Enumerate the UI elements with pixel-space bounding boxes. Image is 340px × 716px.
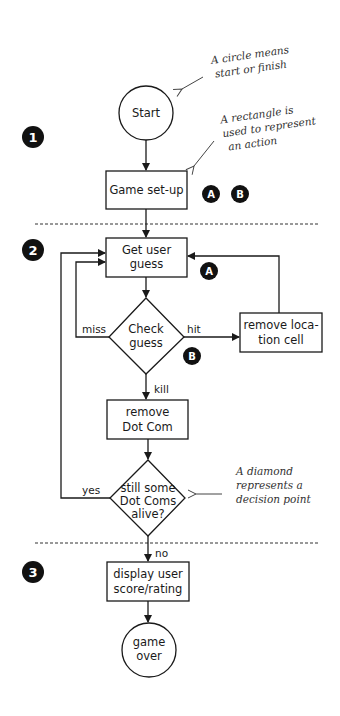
svg-text:guess: guess <box>129 336 163 350</box>
svg-text:remove: remove <box>126 405 170 419</box>
annotation-diamond: A diamond represents a decision point <box>235 465 312 505</box>
svg-text:game: game <box>133 635 166 649</box>
svg-text:remove loca-: remove loca- <box>243 318 318 332</box>
annotation-circle: A circle means start or finish <box>209 43 292 80</box>
annotation-rectangle-arrow <box>194 141 214 166</box>
svg-text:still some: still some <box>120 481 175 495</box>
svg-text:Dot Coms: Dot Coms <box>120 494 176 508</box>
edge-label-kill: kill <box>154 383 169 395</box>
edge-label-yes: yes <box>82 484 100 496</box>
node-game-over: game over <box>122 623 176 677</box>
svg-text:decision point: decision point <box>236 493 312 505</box>
svg-text:tion cell: tion cell <box>258 333 303 347</box>
section-badge-1: 1 <box>22 126 44 148</box>
svg-text:Check: Check <box>128 322 164 336</box>
edge-label-miss: miss <box>82 323 106 335</box>
svg-text:B: B <box>236 189 244 200</box>
marker-b-check: B <box>183 347 201 365</box>
section-badge-3: 3 <box>22 561 44 583</box>
node-start: Start <box>119 86 173 140</box>
edge-remove-cell-to-guess <box>188 256 279 313</box>
svg-text:score/rating: score/rating <box>114 582 183 596</box>
svg-text:1: 1 <box>28 130 37 145</box>
node-remove-dot-com: remove Dot Com <box>107 400 188 439</box>
svg-text:Game set-up: Game set-up <box>109 183 183 197</box>
node-display-score: display user score/rating <box>107 562 189 601</box>
svg-text:alive?: alive? <box>131 507 164 521</box>
svg-text:Get user: Get user <box>122 243 172 257</box>
svg-text:A: A <box>207 189 215 200</box>
section-badge-2: 2 <box>22 239 44 261</box>
node-get-user-guess: Get user guess <box>106 238 187 277</box>
flowchart: 1 2 3 miss hit kill yes no Start Game se… <box>0 0 340 716</box>
svg-text:display user: display user <box>113 567 183 581</box>
marker-a-setup: A <box>202 185 220 203</box>
svg-text:represents a: represents a <box>236 479 303 491</box>
svg-text:2: 2 <box>28 243 37 258</box>
svg-text:A: A <box>205 266 213 277</box>
svg-text:3: 3 <box>28 565 37 580</box>
marker-b-setup: B <box>231 185 249 203</box>
svg-text:guess: guess <box>130 257 164 271</box>
marker-a-guess: A <box>200 262 218 280</box>
svg-text:over: over <box>136 649 162 663</box>
annotation-circle-arrow <box>182 77 203 89</box>
node-still-alive-decision: still some Dot Coms alive? <box>110 460 185 536</box>
svg-text:Dot Com: Dot Com <box>122 420 172 434</box>
edge-label-no: no <box>155 547 168 559</box>
edge-label-hit: hit <box>187 323 201 335</box>
edge-yes <box>61 253 110 498</box>
svg-text:Start: Start <box>132 106 161 120</box>
node-remove-location-cell: remove loca- tion cell <box>240 313 322 352</box>
node-check-guess: Check guess <box>109 298 184 374</box>
node-game-setup: Game set-up <box>106 171 187 209</box>
annotation-rectangle: A rectangle is used to represent an acti… <box>219 100 319 153</box>
svg-text:B: B <box>188 351 196 362</box>
svg-text:A diamond: A diamond <box>235 465 293 477</box>
